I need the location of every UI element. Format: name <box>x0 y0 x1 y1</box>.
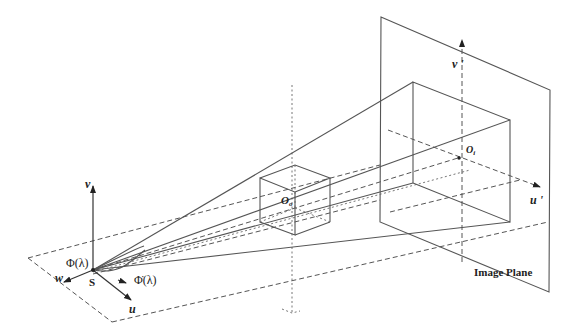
phi-label: Φ(λ) <box>66 256 89 270</box>
camera-axes <box>64 186 145 300</box>
image-plane <box>380 17 550 292</box>
u-prime-label: u ' <box>530 193 544 207</box>
phi-dot-label: Φ̇(λ) <box>134 273 157 287</box>
u-label: u <box>129 302 136 316</box>
projection-rays <box>93 82 510 270</box>
v-prime-label: v ' <box>452 57 464 71</box>
object-cube <box>260 165 330 235</box>
s-point <box>91 268 95 272</box>
o-image-label: Oi <box>466 144 475 157</box>
w-label: w <box>55 271 64 285</box>
dotted-ray <box>93 170 470 272</box>
image-plane-dashed-diag <box>390 180 520 212</box>
vertical-axis-end <box>282 309 300 313</box>
u-prime-axis <box>388 130 540 187</box>
optical-axis-ray <box>93 158 458 270</box>
image-plane-label: Image Plane <box>474 266 532 278</box>
v-label: v <box>85 177 91 191</box>
camera-projection-diagram: v w u S Φ(λ) Φ̇(λ) Oo Oi v ' u ' Image P… <box>0 0 575 336</box>
s-label: S <box>89 276 95 288</box>
phi-dot-arrow <box>118 280 126 283</box>
ground-plane <box>28 165 548 322</box>
o-object-label: Oo <box>281 194 293 208</box>
o-image-point <box>457 156 461 160</box>
dashed-ray-lower <box>93 200 380 274</box>
u-axis <box>93 270 131 300</box>
